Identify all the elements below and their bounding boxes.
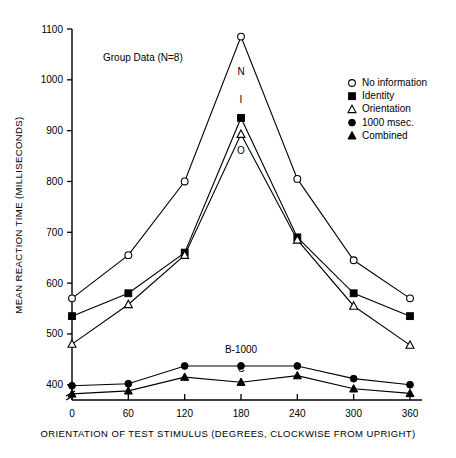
legend-marker-open-circle	[349, 80, 356, 87]
y-axis-tick-label: 1000	[41, 74, 64, 85]
data-point-filled-triangle	[181, 373, 189, 380]
data-point-filled-circle	[294, 363, 301, 370]
y-axis-tick-label: 500	[46, 328, 63, 339]
curve-label-c: C	[237, 363, 244, 374]
data-point-open-triangle	[68, 340, 76, 347]
curve-label-b-1000: B-1000	[225, 344, 258, 355]
x-axis-tick-label: 360	[402, 408, 419, 419]
x-axis-tick-label: 180	[233, 408, 250, 419]
legend-label-orientation: Orientation	[362, 103, 411, 114]
data-point-open-triangle	[406, 341, 414, 348]
y-axis-tick-label: 700	[46, 227, 63, 238]
legend-label-1000-msec: 1000 msec.	[362, 117, 414, 128]
legend-marker-open-triangle	[348, 105, 356, 112]
data-point-open-circle	[181, 178, 188, 185]
data-point-filled-circle	[181, 363, 188, 370]
data-point-open-circle	[350, 257, 357, 264]
y-axis-tick-label: 900	[46, 125, 63, 136]
legend-marker-filled-circle	[349, 119, 356, 126]
curve-label-o: O	[237, 145, 245, 156]
legend-label-no-information: No information	[362, 77, 427, 88]
data-point-open-circle	[69, 295, 76, 302]
curve-label-i: I	[240, 94, 243, 105]
x-axis-tick-label: 60	[123, 408, 135, 419]
reaction-time-line-chart: 4005006007008009001000110006012018024030…	[0, 0, 456, 458]
y-axis-tick-label: 400	[46, 379, 63, 390]
legend-label-combined: Combined	[362, 130, 408, 141]
y-axis-tick-label: 600	[46, 278, 63, 289]
y-axis-title: MEAN REACTION TIME (MILLISECONDS)	[13, 116, 24, 313]
chart-figure: 4005006007008009001000110006012018024030…	[0, 0, 456, 458]
x-axis-tick-label: 240	[289, 408, 306, 419]
data-point-filled-triangle	[293, 371, 301, 378]
group-data-annotation: Group Data (N=8)	[103, 52, 183, 63]
x-axis-title: ORIENTATION OF TEST STIMULUS (DEGREES, C…	[40, 428, 415, 439]
x-axis-tick-label: 0	[69, 408, 75, 419]
legend-label-identity: Identity	[362, 90, 394, 101]
x-axis-tick-label: 120	[176, 408, 193, 419]
data-point-filled-square	[407, 313, 414, 320]
data-point-filled-circle	[69, 382, 76, 389]
legend-marker-filled-triangle	[348, 132, 356, 139]
data-point-open-circle	[294, 176, 301, 183]
series-line-orientation	[72, 134, 410, 345]
y-axis-tick-label: 1100	[41, 24, 63, 35]
data-point-filled-square	[350, 290, 357, 297]
data-point-filled-circle	[350, 375, 357, 382]
x-axis-tick-label: 300	[345, 408, 362, 419]
data-point-filled-square	[238, 115, 245, 122]
data-point-open-circle	[238, 33, 245, 40]
data-point-open-triangle	[237, 130, 245, 137]
data-point-filled-square	[125, 290, 132, 297]
legend-marker-filled-square	[349, 93, 356, 100]
curve-label-n: N	[237, 66, 244, 77]
data-point-filled-square	[69, 313, 76, 320]
y-axis-tick-label: 800	[46, 176, 63, 187]
data-point-filled-circle	[407, 381, 414, 388]
data-point-open-circle	[125, 252, 132, 259]
data-point-open-circle	[407, 295, 414, 302]
